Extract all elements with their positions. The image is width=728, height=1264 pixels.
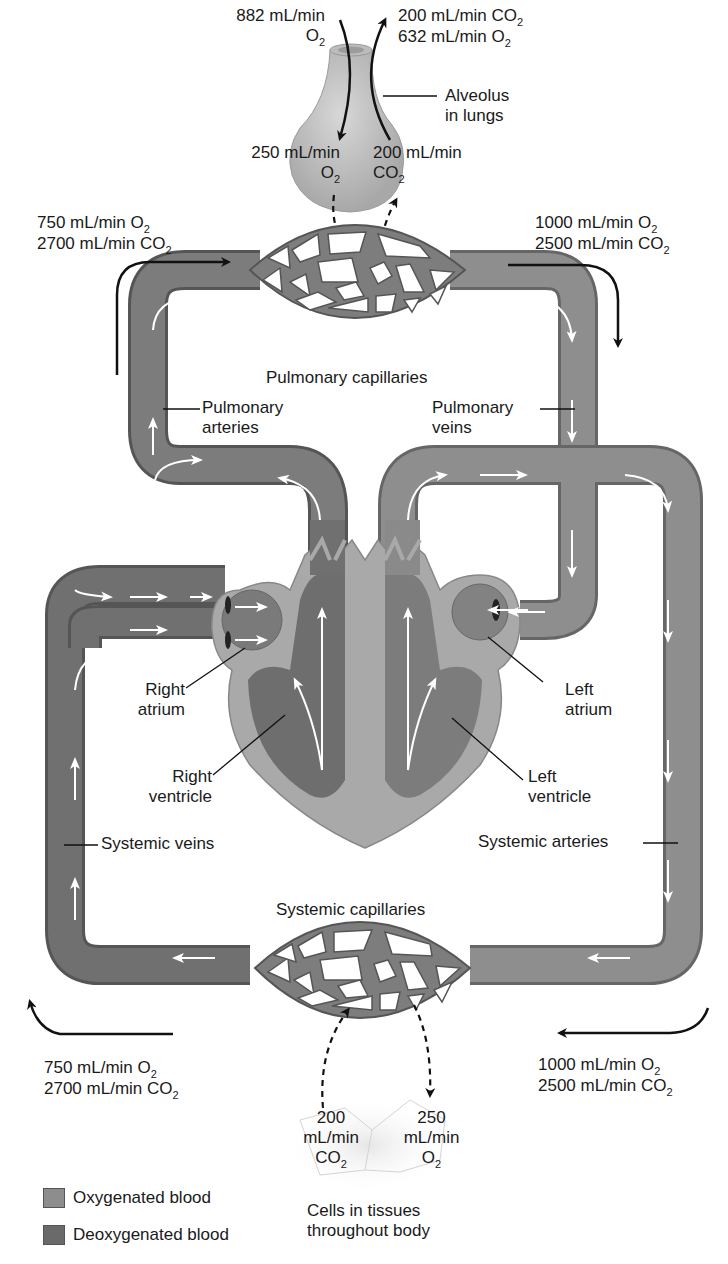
oxygenated-label: Oxygenated blood — [73, 1188, 211, 1208]
legend-deoxygenated: Deoxygenated blood — [43, 1225, 229, 1245]
exhaled-label: 200 mL/min CO2 632 mL/min O2 — [398, 6, 523, 48]
from-blood-value: 200 mL/min — [373, 143, 462, 163]
tissue-co2-label: 200 mL/min CO2 — [296, 1108, 366, 1169]
pulmonary-capillaries-label: Pulmonary capillaries — [266, 368, 428, 388]
systemic-supply-label: 1000 mL/min O2 2500 mL/min CO2 — [538, 1055, 673, 1097]
to-blood-value: 250 mL/min — [230, 143, 340, 163]
alveolus-co2-from-blood-label: 200 mL/min CO2 — [373, 143, 462, 184]
from-blood-gas: CO2 — [373, 163, 462, 184]
deoxygenated-label: Deoxygenated blood — [73, 1225, 229, 1245]
inhaled-o2-label: 882 mL/min O2 — [210, 6, 325, 47]
alveolus — [290, 44, 404, 212]
tissue-co2-diffusion-arrow — [322, 1010, 348, 1108]
inhaled-gas: O2 — [210, 26, 325, 47]
oxygenated-swatch — [43, 1188, 65, 1208]
right-atrium-label: Right atrium — [110, 680, 185, 720]
left-atrium-label: Left atrium — [565, 680, 612, 720]
systemic-capillary-bed — [255, 922, 470, 1018]
tissue-cells-label: Cells in tissues throughout body — [307, 1201, 430, 1241]
heart — [212, 520, 520, 848]
pulmonary-arteries-label: Pulmonary arteries — [202, 398, 283, 438]
deoxygenated-swatch — [43, 1225, 65, 1245]
pulmonary-outflow-label: 1000 mL/min O2 2500 mL/min CO2 — [535, 213, 670, 255]
left-ventricle-label: Left ventricle — [528, 767, 591, 807]
systemic-return-arrow — [30, 1002, 173, 1034]
inhaled-value: 882 mL/min — [210, 6, 325, 26]
alveolus-o2-to-blood-label: 250 mL/min O2 — [230, 143, 340, 184]
systemic-return-label: 750 mL/min O2 2700 mL/min CO2 — [44, 1058, 179, 1100]
systemic-veins-label: Systemic veins — [101, 834, 214, 854]
pulmonary-veins-label: Pulmonary veins — [432, 398, 513, 438]
systemic-capillaries-label: Systemic capillaries — [276, 900, 425, 920]
exhaled-o2: 632 mL/min O2 — [398, 27, 523, 48]
alveolus-label: Alveolus in lungs — [445, 86, 509, 126]
pulmonary-inflow-label: 750 mL/min O2 2700 mL/min CO2 — [37, 213, 172, 255]
alveolus-label-line1: Alveolus — [445, 86, 509, 106]
tissue-o2-diffusion-arrow — [414, 1005, 430, 1095]
to-blood-gas: O2 — [230, 163, 340, 184]
tissue-o2-label: 250 mL/min O2 — [394, 1108, 469, 1169]
legend-oxygenated: Oxygenated blood — [43, 1188, 211, 1208]
alveolus-label-line2: in lungs — [445, 106, 509, 126]
systemic-arteries-label: Systemic arteries — [478, 832, 608, 852]
exhaled-co2: 200 mL/min CO2 — [398, 6, 523, 27]
systemic-supply-arrow — [560, 1008, 708, 1033]
pulmonary-capillary-bed — [250, 225, 465, 318]
right-ventricle-label: Right ventricle — [135, 767, 212, 807]
